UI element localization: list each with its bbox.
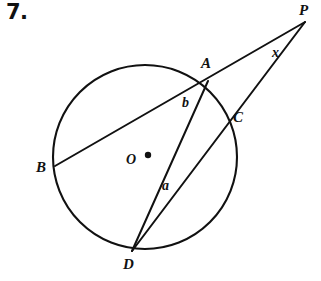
arc-label-a: a (162, 179, 169, 193)
point-label-a: A (201, 56, 211, 71)
geometry-figure: 7. A B C D P O x a b (0, 0, 321, 281)
point-label-b: B (36, 160, 46, 175)
angle-label-x: x (272, 46, 279, 60)
center-label-o: O (126, 153, 136, 167)
point-label-d: D (123, 257, 134, 272)
geometry-canvas (0, 0, 321, 281)
point-label-p: P (299, 3, 308, 18)
secant-p-to-d (132, 22, 305, 251)
arc-label-b: b (182, 96, 189, 110)
point-label-c: C (233, 110, 243, 125)
center-dot-icon (145, 152, 151, 158)
